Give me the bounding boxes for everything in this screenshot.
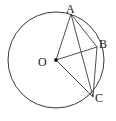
segment-OC-radius — [56, 60, 93, 97]
segment-OA-radius — [56, 14, 71, 60]
geometry-figure: A B C O — [0, 0, 116, 121]
vertex-label-b: B — [99, 38, 107, 50]
segment-BC-chord — [93, 47, 97, 97]
segment-OB-radius — [56, 47, 97, 60]
vertex-label-c: C — [95, 92, 103, 104]
segment-AB-chord — [71, 14, 97, 47]
center-point-marker — [54, 58, 58, 62]
vertex-label-o-center: O — [38, 56, 47, 68]
vertex-label-a: A — [66, 3, 75, 15]
